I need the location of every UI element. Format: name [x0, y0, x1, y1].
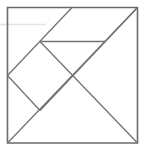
tangram-figure: Tangram square dissection diagram A squa… — [0, 0, 145, 153]
tangram-canvas: Tangram square dissection diagram A squa… — [0, 0, 145, 153]
